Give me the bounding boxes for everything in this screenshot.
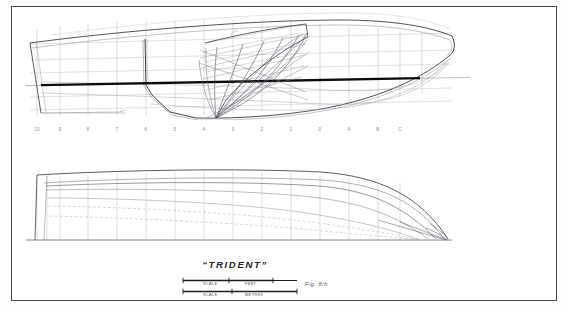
figure-label: Fig. 8/b [305, 281, 328, 287]
drawing-sheet: 10 9 8 7 6 5 4 3 2 1 0 A B C “TRIDENT” S… [0, 0, 569, 313]
ship-name-title: “TRIDENT” [170, 259, 300, 270]
station-label: 6 [145, 127, 148, 132]
station-grid-lines-plan [37, 172, 400, 240]
sheer-line [30, 20, 452, 43]
station-label: 10 [34, 127, 40, 132]
scale-bar-feet: SCALE FEET [183, 276, 301, 287]
scale-metres-unit: METRES [245, 292, 263, 297]
transom-half-breadth [35, 175, 37, 240]
scale-feet-unit: FEET [245, 281, 256, 286]
station-label: 4 [203, 127, 206, 132]
station-label: 7 [116, 127, 119, 132]
half-breadth-view-group [26, 170, 452, 240]
covering-board-line [52, 13, 450, 35]
stem-post-line [145, 39, 196, 118]
station-label: 3 [232, 127, 235, 132]
station-label: B [376, 127, 379, 132]
stem-face-line [147, 40, 149, 86]
transom-inner-line [36, 41, 46, 112]
bow-stem-inner [447, 40, 452, 56]
scale-metres-word: SCALE [203, 292, 218, 297]
profile-view-group [25, 13, 470, 120]
deck-inner-line [44, 178, 444, 239]
scale-feet-word: SCALE [203, 281, 218, 286]
station-label: 0 [319, 127, 322, 132]
keel-rabbet-aft [41, 110, 126, 113]
transom-line [30, 43, 41, 113]
station-label: 8 [87, 127, 90, 132]
diagonal-lines-half-breadth [48, 206, 420, 240]
station-label: 2 [261, 127, 264, 132]
title-block: “TRIDENT” SCALE FEET SCALE METRES Fig. 8… [170, 259, 385, 301]
station-label: 9 [59, 127, 62, 132]
stem-post-inner [143, 40, 198, 120]
transom-inner-half-breadth [44, 176, 47, 240]
station-label: 5 [174, 127, 177, 132]
waterline-curves-half-breadth [46, 183, 436, 240]
station-label: 1 [290, 127, 293, 132]
station-label: C [398, 127, 402, 132]
station-label: A [347, 127, 350, 132]
scale-bar-metres: SCALE METRES [183, 287, 301, 298]
